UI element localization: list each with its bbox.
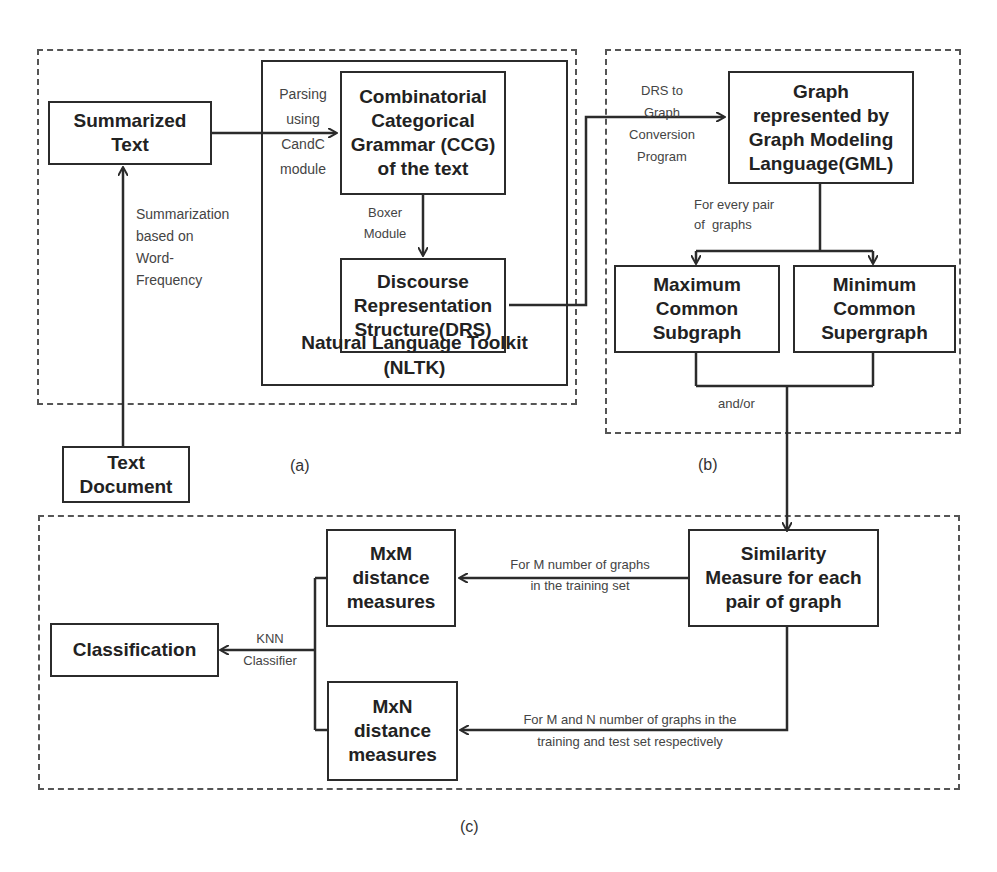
min-common-supergraph-box: MinimumCommonSupergraph	[793, 265, 956, 353]
and-or-label: and/or	[718, 396, 755, 412]
parsing-label: ParsingusingCandCmodule	[270, 82, 336, 182]
nltk-label: Natural Language Toolkit(NLTK)	[263, 330, 566, 380]
caption-a: (a)	[290, 457, 310, 475]
similarity-measure-box: SimilarityMeasure for eachpair of graph	[688, 529, 879, 627]
classification-box: Classification	[50, 623, 219, 677]
mn-graphs-label: For M and N number of graphs in thetrain…	[480, 712, 780, 750]
m-graphs-label: For M number of graphsin the training se…	[480, 557, 680, 594]
knn-label: KNNClassifier	[230, 631, 310, 669]
mxn-distance-box: MxNdistancemeasures	[327, 681, 458, 781]
summarization-label: Summarizationbased onWord-Frequency	[136, 203, 229, 291]
summarized-text-box: SummarizedText	[48, 101, 212, 165]
text-document-box: TextDocument	[62, 446, 190, 503]
boxer-label: BoxerModule	[355, 205, 415, 242]
drs-to-graph-label: DRS toGraphConversionProgram	[612, 83, 712, 165]
caption-b: (b)	[698, 456, 718, 474]
every-pair-label: For every pairof graphs	[694, 197, 774, 233]
caption-c: (c)	[460, 818, 479, 836]
gml-box: Graphrepresented byGraph ModelingLanguag…	[728, 71, 914, 184]
ccg-box: CombinatorialCategoricalGrammar (CCG)of …	[340, 71, 506, 195]
mxm-distance-box: MxMdistancemeasures	[326, 529, 456, 627]
max-common-subgraph-box: MaximumCommonSubgraph	[614, 265, 780, 353]
